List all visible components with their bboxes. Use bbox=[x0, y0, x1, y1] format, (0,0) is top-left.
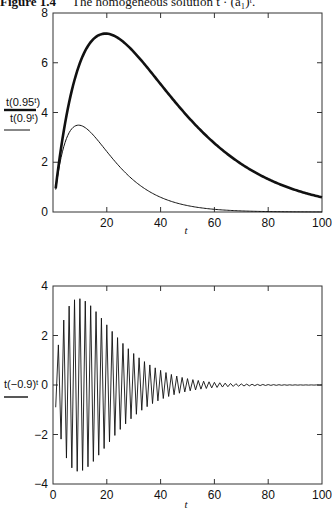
series-line-t-095 bbox=[56, 34, 322, 198]
top-axis-ticks: 2040608010002468 bbox=[41, 6, 332, 230]
y-tick-label: 4 bbox=[41, 279, 48, 293]
y-tick-label: 4 bbox=[41, 106, 48, 120]
top-x-axis-label: t bbox=[184, 224, 188, 236]
bottom-axis-ticks: 020406080100−4−2024 bbox=[34, 279, 332, 502]
figure-plots: 2040608010002468 t t(0.95ᵗ) t(0.9ᵗ) 0204… bbox=[0, 0, 332, 510]
legend-label-t-09: t(0.9ᵗ) bbox=[10, 112, 38, 124]
top-chart: 2040608010002468 t t(0.95ᵗ) t(0.9ᵗ) bbox=[4, 6, 332, 236]
x-tick-label: 20 bbox=[100, 216, 114, 230]
y-tick-label: 8 bbox=[41, 6, 48, 20]
x-tick-label: 20 bbox=[100, 488, 114, 502]
top-legend: t(0.95ᵗ) t(0.9ᵗ) bbox=[4, 96, 40, 130]
x-tick-label: 100 bbox=[312, 488, 332, 502]
y-tick-label: 2 bbox=[41, 329, 48, 343]
legend-label-t-095: t(0.95ᵗ) bbox=[6, 96, 40, 108]
y-tick-label: 0 bbox=[41, 205, 48, 219]
series-line-t-neg09 bbox=[56, 299, 322, 472]
x-tick-label: 80 bbox=[262, 488, 276, 502]
x-tick-label: 0 bbox=[50, 488, 57, 502]
bottom-chart: 020406080100−4−2024 t t(−0.9)ᵗ bbox=[4, 279, 332, 510]
legend-label-t-neg09: t(−0.9)ᵗ bbox=[4, 378, 39, 390]
x-tick-label: 40 bbox=[154, 488, 168, 502]
bottom-x-axis-label: t bbox=[184, 498, 188, 510]
y-tick-label: 0 bbox=[41, 378, 48, 392]
top-plot-frame bbox=[53, 13, 322, 212]
y-tick-label: 2 bbox=[41, 155, 48, 169]
x-tick-label: 80 bbox=[262, 216, 276, 230]
y-tick-label: 6 bbox=[41, 56, 48, 70]
y-tick-label: −2 bbox=[34, 428, 48, 442]
x-tick-label: 60 bbox=[208, 216, 222, 230]
x-tick-label: 40 bbox=[154, 216, 168, 230]
bottom-legend: t(−0.9)ᵗ bbox=[4, 378, 39, 397]
x-tick-label: 100 bbox=[312, 216, 332, 230]
x-tick-label: 60 bbox=[208, 488, 222, 502]
series-line-t-09 bbox=[56, 125, 322, 212]
y-tick-label: −4 bbox=[34, 477, 48, 491]
